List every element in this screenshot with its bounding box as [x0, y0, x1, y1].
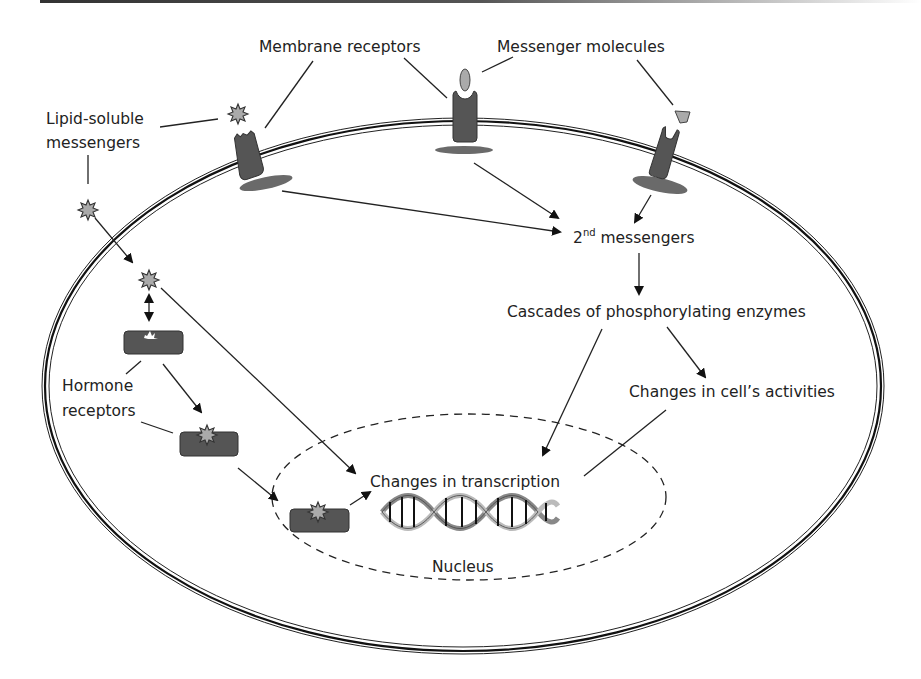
- lipid-messenger-star-cytoplasm: [139, 270, 159, 290]
- label-lipid-soluble-2: messengers: [46, 134, 140, 152]
- arrow-receptor-binding: [163, 364, 201, 412]
- label-transcription: Changes in transcription: [370, 473, 560, 491]
- lipid-messenger-star-top: [228, 104, 248, 124]
- label-membrane-receptors: Membrane receptors: [259, 38, 420, 56]
- label-lipid-soluble-1: Lipid-soluble: [46, 110, 144, 128]
- label-messenger-molecules: Messenger molecules: [497, 38, 665, 56]
- nuclear-receptor-complex: [290, 502, 349, 532]
- membrane-receptor-left: [234, 130, 294, 194]
- label-hormone-2: receptors: [62, 402, 135, 420]
- label-nucleus: Nucleus: [432, 558, 494, 576]
- label-cascades: Cascades of phosphorylating enzymes: [507, 303, 806, 321]
- label-cell-activities: Changes in cell’s activities: [629, 383, 835, 401]
- hormone-receptor-bound: [180, 425, 238, 456]
- label-second-messengers: 2nd messengers: [573, 227, 694, 247]
- label-hormone-1: Hormone: [62, 377, 133, 395]
- dna-helix-icon: [382, 496, 558, 529]
- cell-signaling-diagram: Membrane receptors Messenger molecules L…: [0, 0, 921, 679]
- leader-lines: [88, 57, 673, 433]
- membrane-receptor-middle: [435, 69, 493, 154]
- arrow-to-nucleus: [238, 468, 277, 500]
- membrane-receptor-right: [631, 111, 690, 198]
- hormone-receptor-unbound: [124, 331, 183, 354]
- lipid-messenger-star-outside: [78, 200, 98, 220]
- arrow-complex-to-transcription: [350, 492, 370, 505]
